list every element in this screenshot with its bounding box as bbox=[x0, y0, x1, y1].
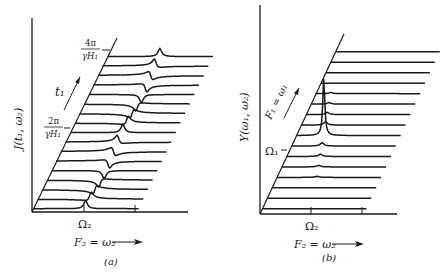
trace-a bbox=[85, 103, 190, 111]
trace-a bbox=[89, 95, 194, 103]
trace-b bbox=[292, 143, 396, 146]
trace-a bbox=[94, 84, 199, 92]
tick-4pi-den: γH₁ bbox=[82, 51, 98, 61]
trace-b bbox=[311, 103, 415, 105]
trace-a bbox=[52, 171, 157, 179]
trace-b bbox=[302, 122, 406, 125]
trace-b bbox=[287, 154, 391, 156]
figure-canvas: J(t₁, ω₂) t₁ 2π γH₁ 4π γH₁ Ω₂ F₂ = ω₂ (a… bbox=[0, 0, 440, 277]
caption-a: (a) bbox=[104, 256, 118, 267]
f1-arrowhead bbox=[294, 88, 299, 95]
trace-a bbox=[34, 201, 139, 209]
xlabel-b: F₂ = ω₂ bbox=[293, 238, 336, 251]
trace-b bbox=[277, 176, 381, 177]
trace-a bbox=[71, 125, 176, 133]
trace-a bbox=[62, 148, 167, 156]
trace-a bbox=[43, 186, 148, 194]
trace-a bbox=[99, 72, 204, 80]
trace-a bbox=[66, 135, 171, 143]
trace-a bbox=[48, 179, 153, 187]
depth-tick-label-b: Ω₁ bbox=[265, 145, 279, 158]
panel-a bbox=[32, 18, 213, 212]
tick-2pi-num: 2π bbox=[48, 116, 59, 126]
caption-b: (b) bbox=[322, 252, 336, 263]
trace-b bbox=[316, 93, 420, 94]
depth-axis bbox=[32, 38, 117, 212]
ylabel-b: Y(ω₁, ω₂) bbox=[238, 92, 251, 142]
panel-b bbox=[260, 5, 440, 214]
trace-a bbox=[103, 59, 208, 67]
trace-b bbox=[282, 165, 386, 167]
xlabel-a: F₂ = ω₂ bbox=[73, 236, 116, 249]
depth-label-a: t₁ bbox=[55, 85, 65, 99]
x-tick-label-b: Ω₂ bbox=[305, 220, 319, 233]
trace-a bbox=[80, 110, 185, 118]
x-tick-label-a: Ω₂ bbox=[78, 218, 92, 231]
trace-a bbox=[57, 160, 162, 168]
trace-a bbox=[108, 49, 213, 57]
t1-arrowhead bbox=[75, 77, 80, 84]
trace-b bbox=[297, 79, 401, 136]
ylabel-a: J(t₁, ω₂) bbox=[12, 108, 25, 152]
traces-b bbox=[262, 52, 439, 209]
tick-2pi-den: γH₁ bbox=[45, 129, 61, 139]
tick-4pi-num: 4π bbox=[85, 38, 96, 48]
